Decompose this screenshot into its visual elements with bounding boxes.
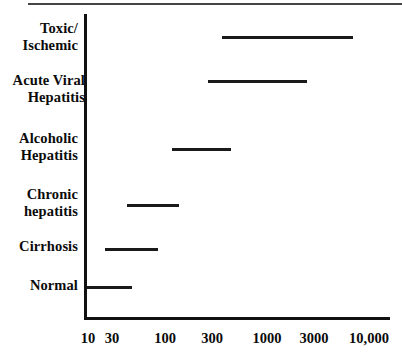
range-bar-alcoholic xyxy=(172,148,231,151)
category-label-line2: Hepatitis xyxy=(0,147,78,164)
category-label-line2: Ischemic xyxy=(0,37,78,54)
value-axis-line xyxy=(84,317,390,320)
range-bar-cirrhosis xyxy=(105,248,158,251)
category-label-line1: Cirrhosis xyxy=(0,238,78,255)
xtick-label-3000: 3000 xyxy=(300,330,329,347)
xtick-label-300: 300 xyxy=(201,330,223,347)
category-label-line1: Toxic/ xyxy=(0,20,78,37)
xtick-label-1000: 1000 xyxy=(253,330,282,347)
range-bar-chronic xyxy=(127,204,179,207)
category-label-normal: Normal xyxy=(0,277,82,294)
range-bar-acute-viral xyxy=(208,80,307,83)
category-label-chronic: Chronic hepatitis xyxy=(0,186,82,220)
category-label-line1: Chronic xyxy=(0,186,78,203)
chart-container: Toxic/ Ischemic Acute Viral Hepatitis Al… xyxy=(0,0,402,364)
category-label-line2: Hepatitis xyxy=(0,89,85,106)
category-label-alcoholic: Alcoholic Hepatitis xyxy=(0,130,82,164)
xtick-label-10000: 10,000 xyxy=(349,330,389,347)
xtick-label-30: 30 xyxy=(105,330,120,347)
category-label-line2: hepatitis xyxy=(0,203,78,220)
category-label-line1: Acute Viral xyxy=(0,72,85,89)
category-axis-line xyxy=(84,14,87,320)
range-bar-normal xyxy=(87,286,132,289)
category-label-line1: Normal xyxy=(0,277,78,294)
xtick-label-10: 10 xyxy=(81,330,96,347)
category-label-toxic-ischemic: Toxic/ Ischemic xyxy=(0,20,82,54)
category-label-cirrhosis: Cirrhosis xyxy=(0,238,82,255)
category-label-line1: Alcoholic xyxy=(0,130,78,147)
range-bar-toxic-ischemic xyxy=(222,36,353,39)
xtick-label-100: 100 xyxy=(154,330,176,347)
plot-area: Toxic/ Ischemic Acute Viral Hepatitis Al… xyxy=(0,0,402,364)
category-label-acute-viral: Acute Viral Hepatitis xyxy=(0,72,89,106)
